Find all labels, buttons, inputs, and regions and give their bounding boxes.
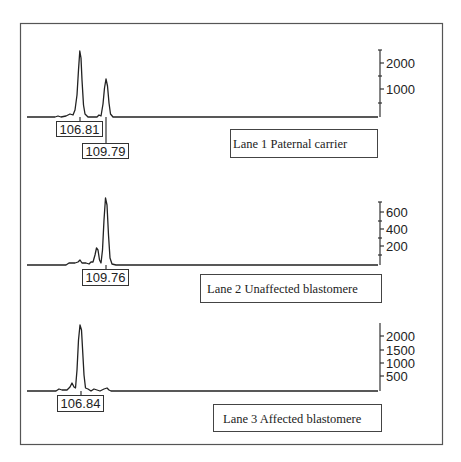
lane-2-tick-200: 200 xyxy=(386,239,408,254)
lane-3-panel: 2000 1500 1000 500 106.84 Lane 3 Affecte… xyxy=(27,323,415,432)
lane-3-tick-2000: 2000 xyxy=(386,329,415,344)
electropherogram-figure: 2000 1000 106.81 109.79 Lane 1 Paternal … xyxy=(0,0,461,462)
lane-2-tick-600: 600 xyxy=(386,205,408,220)
lane-2-caption: Lane 2 Unaffected blastomere xyxy=(207,282,358,296)
lane-2-panel: 600 400 200 109.76 Lane 2 Unaffected bla… xyxy=(27,198,408,303)
lane-3-peak-1-label: 106.84 xyxy=(61,396,101,411)
lane-2-trace xyxy=(27,198,378,265)
lane-1-peak-2-label: 109.79 xyxy=(86,144,126,159)
lane-3-trace xyxy=(27,325,378,391)
lane-1-caption: Lane 1 Paternal carrier xyxy=(233,137,348,151)
lane-1-tick-2000: 2000 xyxy=(386,56,415,71)
lane-2-tick-400: 400 xyxy=(386,222,408,237)
figure-frame xyxy=(21,24,443,445)
lane-1-tick-1000: 1000 xyxy=(386,82,415,97)
lane-3-tick-500: 500 xyxy=(386,369,408,384)
lane-1-peak-1-label: 106.81 xyxy=(60,122,100,137)
lane-1-panel: 2000 1000 106.81 109.79 Lane 1 Paternal … xyxy=(27,50,415,159)
lane-2-peak-1-label: 109.76 xyxy=(86,270,126,285)
lane-1-trace xyxy=(27,51,378,117)
lane-3-caption: Lane 3 Affected blastomere xyxy=(223,412,362,426)
